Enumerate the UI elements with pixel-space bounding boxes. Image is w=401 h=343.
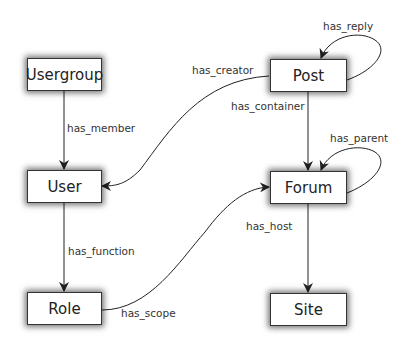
node-forum: Forum	[270, 171, 347, 204]
node-usergroup: Usergroup	[27, 58, 102, 91]
node-label: User	[47, 178, 81, 196]
label-has-reply: has_reply	[323, 20, 373, 32]
node-role: Role	[27, 292, 102, 325]
node-site: Site	[270, 293, 347, 326]
label-has-member: has_member	[67, 122, 135, 134]
node-label: Usergroup	[26, 66, 104, 84]
label-has-parent: has_parent	[330, 132, 388, 144]
node-label: Role	[48, 300, 80, 318]
node-label: Site	[294, 301, 323, 319]
node-post: Post	[270, 59, 347, 92]
node-label: Post	[293, 67, 324, 85]
label-has-container: has_container	[231, 100, 305, 112]
label-has-host: has_host	[246, 220, 292, 232]
label-has-function: has_function	[68, 245, 135, 257]
node-label: Forum	[285, 179, 333, 197]
label-has-scope: has_scope	[121, 307, 176, 319]
label-has-creator: has_creator	[192, 64, 253, 76]
node-user: User	[27, 170, 102, 203]
